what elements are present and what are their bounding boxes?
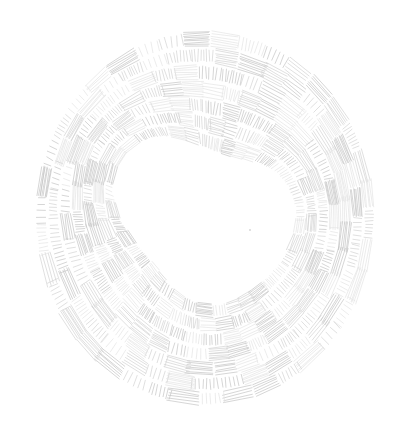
hatch-stroke (206, 378, 207, 389)
hatch-stroke (73, 217, 83, 218)
hatch-stroke (100, 182, 101, 204)
hatch-stroke (170, 104, 191, 105)
hatch-stroke (203, 379, 204, 389)
hatch-stroke (206, 393, 207, 404)
hatch-stroke (50, 225, 58, 226)
hatch-stroke (102, 182, 103, 205)
hatched-ring-drawing (0, 0, 410, 444)
hatch-stroke (215, 393, 216, 404)
ink-speck (249, 229, 251, 231)
hatch-stroke (202, 66, 203, 79)
hatch-stroke (114, 226, 124, 227)
